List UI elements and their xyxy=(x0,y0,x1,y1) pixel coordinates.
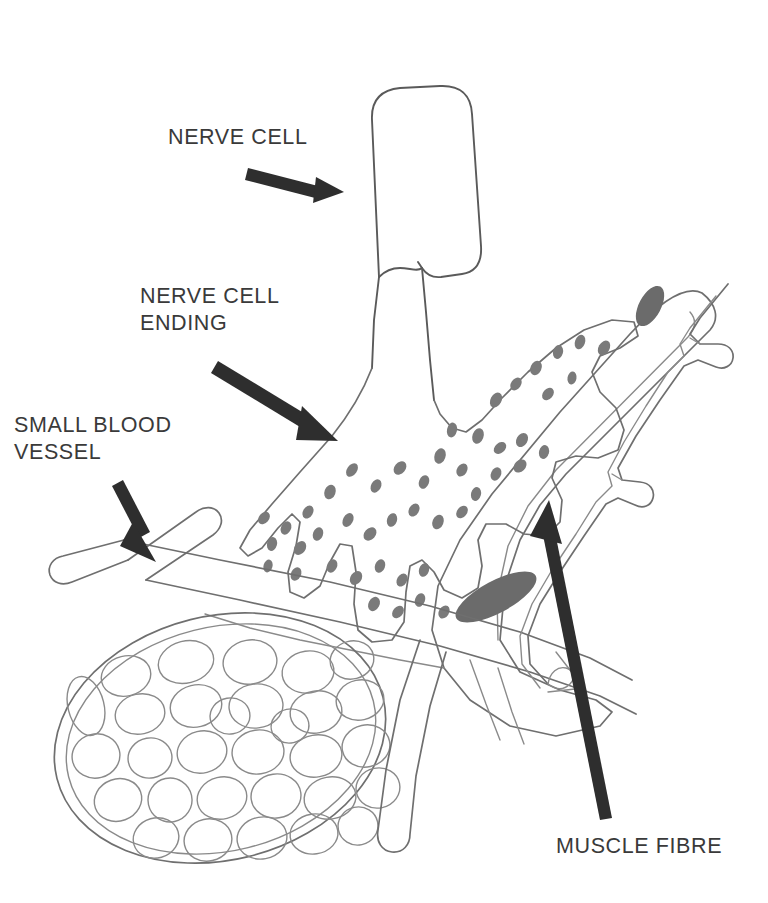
label-nerve-cell-ending-line1: NERVE CELL xyxy=(140,284,279,308)
nerve-cell-outline xyxy=(372,86,481,277)
diagram-canvas: NERVE CELL NERVE CELL ENDING SMALL BLOOD… xyxy=(0,0,768,903)
neuromuscular-junction-figure: NERVE CELL NERVE CELL ENDING SMALL BLOOD… xyxy=(0,0,768,903)
nerve-cell-neck-left xyxy=(379,268,422,277)
vessel-branch-left xyxy=(49,540,128,584)
vessel-descending-left xyxy=(378,640,446,852)
label-nerve-cell: NERVE CELL xyxy=(168,125,307,149)
nerve-cell-ending xyxy=(240,320,638,642)
capillary-outer-wall xyxy=(528,284,733,684)
capillary-inner-wall xyxy=(520,296,716,688)
nerve-ending-outline xyxy=(240,320,638,642)
arrow-nerve-cell-ending xyxy=(211,361,338,441)
myofibrils xyxy=(61,635,403,866)
vessel-fork-centre-2 xyxy=(498,668,524,744)
nerve-cell-body xyxy=(372,86,481,400)
axon-left-wall xyxy=(372,277,379,368)
vessel-fork-centre xyxy=(470,660,500,740)
muscle-nucleus-upper xyxy=(630,281,670,330)
label-nerve-cell-ending-line2: ENDING xyxy=(140,311,227,335)
label-small-blood-vessel-line1: SMALL BLOOD xyxy=(14,413,172,437)
label-small-blood-vessel-line2: VESSEL xyxy=(14,440,101,464)
muscle-fibre-cut-end xyxy=(27,579,412,897)
cut-end-outer-sheath xyxy=(27,579,412,897)
arrow-small-blood-vessel xyxy=(112,480,156,562)
label-muscle-fibre: MUSCLE FIBRE xyxy=(556,834,722,858)
arrow-muscle-fibre xyxy=(530,500,612,820)
axon-right-wall xyxy=(422,268,434,400)
arrow-nerve-cell xyxy=(245,168,344,203)
capillary-alongside-fibre xyxy=(520,284,733,692)
